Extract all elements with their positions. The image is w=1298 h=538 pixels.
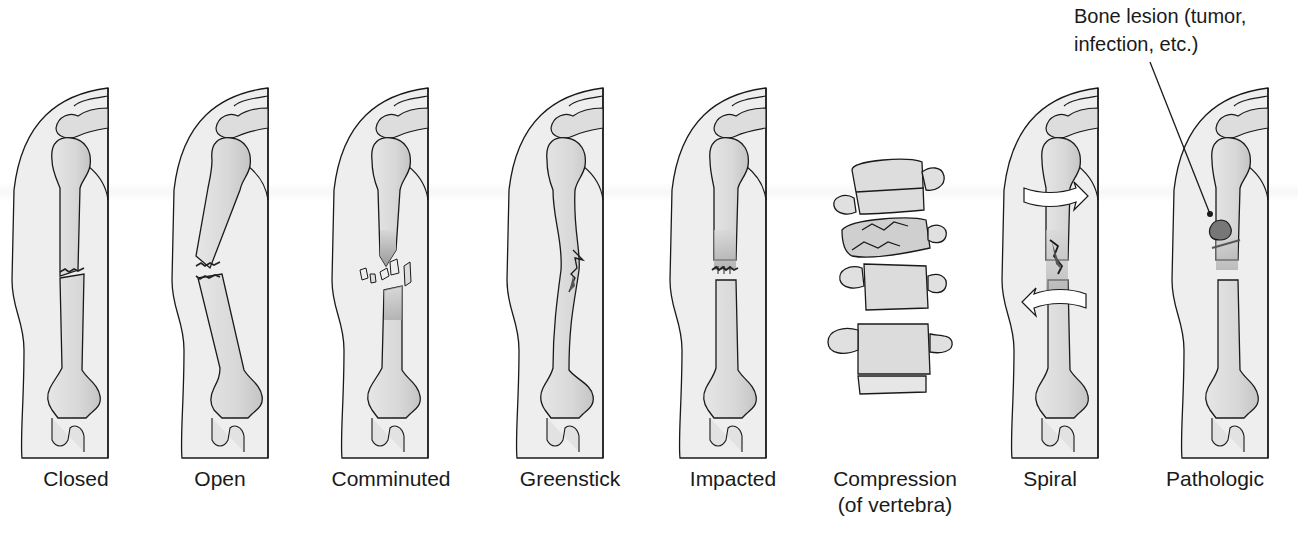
annotation-leader-line [0,0,1298,538]
